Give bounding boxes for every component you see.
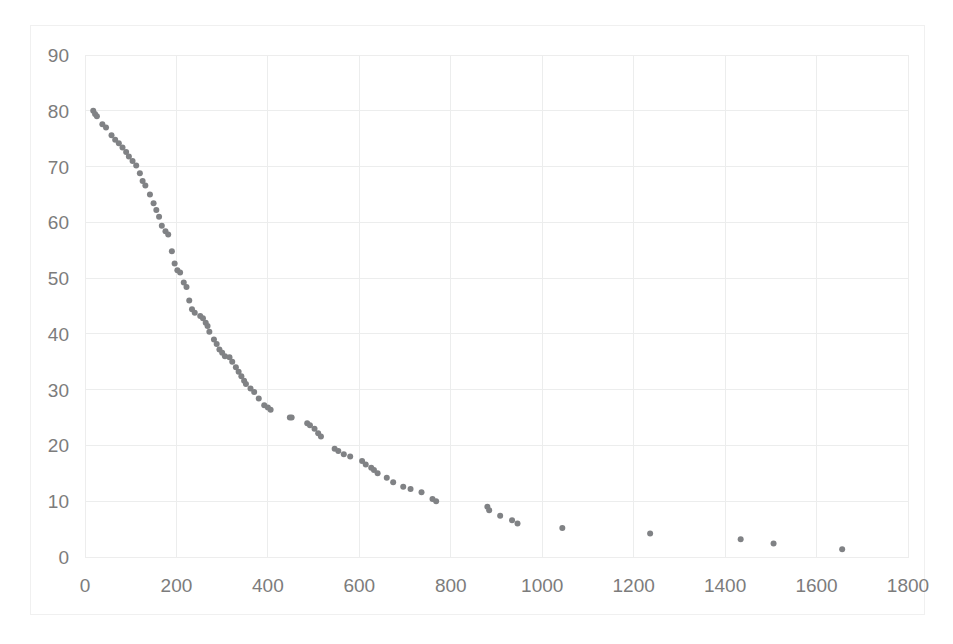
y-tick-label: 40	[48, 324, 69, 345]
y-tick-label: 70	[48, 157, 69, 178]
data-point	[738, 536, 744, 542]
data-point	[647, 531, 653, 537]
data-point	[229, 359, 235, 365]
data-point	[165, 232, 171, 238]
x-tick-label: 1800	[887, 575, 929, 596]
data-point	[363, 461, 369, 467]
x-tick-label: 1600	[795, 575, 837, 596]
data-point	[151, 200, 157, 206]
data-point	[147, 191, 153, 197]
data-point	[335, 448, 341, 454]
plot-area-border	[85, 55, 908, 557]
data-point	[268, 407, 274, 413]
data-point	[497, 513, 503, 519]
data-point	[509, 517, 515, 523]
y-tick-label: 60	[48, 212, 69, 233]
data-point	[559, 525, 565, 531]
data-point	[192, 310, 198, 316]
x-tick-label: 0	[80, 575, 91, 596]
data-point	[172, 261, 178, 267]
y-tick-label: 0	[58, 547, 69, 568]
data-point	[94, 113, 100, 119]
y-axis-tick-labels: 0102030405060708090	[48, 45, 69, 568]
data-point	[390, 479, 396, 485]
data-point	[341, 451, 347, 457]
data-point	[153, 207, 159, 213]
data-point	[486, 507, 492, 513]
data-point	[186, 297, 192, 303]
data-point	[142, 183, 148, 189]
data-point	[289, 415, 295, 421]
data-point	[318, 434, 324, 440]
y-tick-label: 50	[48, 268, 69, 289]
x-tick-label: 1200	[613, 575, 655, 596]
plot-area-rect	[85, 55, 908, 557]
data-point	[243, 381, 249, 387]
data-point	[256, 396, 262, 402]
data-point	[384, 475, 390, 481]
data-points-layer	[90, 108, 845, 552]
data-point	[206, 329, 212, 335]
scatter-chart: 0102030405060708090 02004006008001000120…	[0, 0, 953, 644]
y-tick-label: 90	[48, 45, 69, 66]
y-tick-label: 80	[48, 101, 69, 122]
data-point	[375, 470, 381, 476]
y-tick-label: 30	[48, 380, 69, 401]
data-point	[408, 486, 414, 492]
data-point	[177, 270, 183, 276]
data-point	[184, 284, 190, 290]
data-point	[771, 541, 777, 547]
x-axis-tick-labels: 020040060080010001200140016001800	[80, 575, 929, 596]
y-tick-label: 20	[48, 435, 69, 456]
data-point	[159, 223, 165, 229]
data-point	[205, 323, 211, 329]
data-point	[251, 389, 257, 395]
x-tick-label: 1400	[704, 575, 746, 596]
x-tick-label: 400	[252, 575, 284, 596]
chart-plot-svg: 0102030405060708090 02004006008001000120…	[0, 0, 953, 644]
data-point	[169, 248, 175, 254]
data-point	[400, 484, 406, 490]
x-tick-label: 200	[161, 575, 193, 596]
data-point	[839, 546, 845, 552]
data-point	[515, 521, 521, 527]
x-tick-label: 1000	[521, 575, 563, 596]
data-point	[103, 125, 109, 131]
data-point	[156, 214, 162, 220]
data-point	[133, 162, 139, 168]
y-tick-label: 10	[48, 491, 69, 512]
x-tick-label: 600	[343, 575, 375, 596]
data-point	[347, 454, 353, 460]
x-tick-label: 800	[435, 575, 467, 596]
data-point	[419, 489, 425, 495]
data-point	[137, 170, 143, 176]
gridlines-layer	[85, 55, 908, 557]
data-point	[214, 341, 220, 347]
data-point	[433, 498, 439, 504]
